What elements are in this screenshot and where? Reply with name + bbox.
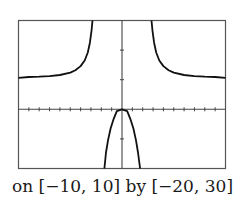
window-caption: on [−10, 10] by [−20, 30]: [0, 176, 245, 196]
graph-plot: [0, 0, 245, 176]
right-branch-curve: [152, 21, 226, 78]
left-branch-curve: [19, 21, 93, 78]
axes: [19, 21, 226, 169]
